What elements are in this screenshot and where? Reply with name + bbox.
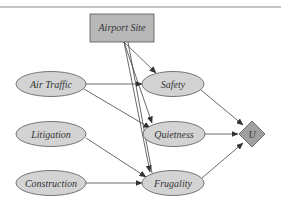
edges	[84, 42, 243, 183]
node-construction-label: Construction	[25, 178, 77, 189]
node-litigation[interactable]: Litigation	[16, 122, 86, 147]
edge-frugality-to-utility	[202, 143, 243, 178]
node-safety[interactable]: Safety	[142, 72, 204, 97]
node-airport-site[interactable]: Airport Site	[90, 14, 154, 42]
influence-diagram: Airport Site Air Traffic Litigation Cons…	[0, 0, 281, 211]
node-quietness-label: Quietness	[154, 129, 194, 140]
node-safety-label: Safety	[161, 79, 186, 90]
edge-safety-to-utility	[201, 90, 243, 125]
node-construction[interactable]: Construction	[16, 171, 86, 196]
node-airport-site-label: Airport Site	[98, 22, 147, 33]
node-litigation-label: Litigation	[30, 129, 70, 140]
node-utility-label: U	[248, 129, 256, 140]
node-air-traffic[interactable]: Air Traffic	[16, 72, 86, 97]
node-quietness[interactable]: Quietness	[143, 122, 205, 147]
node-air-traffic-label: Air Traffic	[29, 79, 73, 90]
node-frugality-label: Frugality	[153, 178, 192, 189]
edge-litigation-to-frugality	[86, 138, 146, 177]
node-frugality[interactable]: Frugality	[142, 171, 204, 196]
edge-airport-site-to-frugality-2	[128, 42, 152, 173]
